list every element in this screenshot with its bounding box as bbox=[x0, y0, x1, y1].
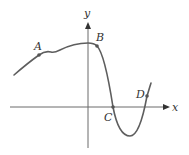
y-axis-label: y bbox=[83, 7, 91, 20]
point-a bbox=[37, 53, 41, 57]
y-axis-arrow-icon bbox=[85, 22, 91, 29]
point-a-label: A bbox=[33, 40, 42, 53]
function-curve bbox=[14, 43, 151, 136]
point-b bbox=[95, 44, 99, 48]
point-b-label: B bbox=[95, 31, 104, 44]
point-c-label: C bbox=[104, 111, 113, 124]
point-c bbox=[111, 105, 115, 109]
point-d bbox=[145, 94, 149, 98]
function-graph: x y A B C D bbox=[0, 0, 189, 155]
x-axis-arrow-icon bbox=[163, 104, 170, 110]
point-d-label: D bbox=[135, 88, 145, 101]
y-axis bbox=[85, 22, 91, 148]
x-axis-label: x bbox=[172, 101, 179, 114]
